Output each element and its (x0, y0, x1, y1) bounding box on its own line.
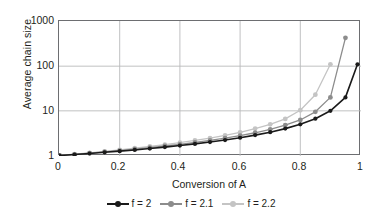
data-point (343, 95, 347, 99)
data-point (253, 126, 258, 131)
data-point (298, 122, 302, 126)
data-point (118, 149, 122, 153)
data-point (283, 116, 288, 121)
data-point (148, 146, 152, 150)
legend-item-f2[interactable]: f = 2 (107, 198, 152, 209)
data-point (313, 117, 317, 121)
y-tick-label-10: 10 (14, 105, 54, 115)
data-point (283, 127, 287, 131)
data-point (328, 62, 333, 67)
data-series-layer (59, 35, 360, 156)
legend-item-f21[interactable]: f = 2.1 (160, 198, 213, 209)
data-point (268, 122, 273, 127)
legend-label-f22: f = 2.2 (247, 198, 275, 209)
data-point (208, 140, 212, 144)
data-point (313, 92, 318, 97)
data-point (253, 133, 257, 137)
data-point (298, 118, 303, 123)
y-tick-label-100: 100 (14, 60, 54, 70)
x-tick-label-0: 0 (38, 161, 78, 171)
chart-legend: f = 2 f = 2.1 f = 2.2 (0, 198, 382, 209)
x-tick-label-0.4: 0.4 (158, 161, 198, 171)
data-point (59, 153, 62, 156)
legend-marker-f22 (230, 201, 236, 207)
legend-label-f21: f = 2.1 (185, 198, 213, 209)
gridlines (59, 21, 361, 156)
legend-marker-f2 (115, 201, 121, 207)
x-axis-title: Conversion of A (58, 178, 360, 190)
plot-svg (59, 21, 361, 156)
legend-marker-f21 (168, 201, 174, 207)
x-tick-label-0.6: 0.6 (219, 161, 259, 171)
data-point (328, 109, 332, 113)
legend-swatch-icon (222, 199, 244, 208)
plot-area (58, 20, 360, 155)
data-point (223, 138, 227, 142)
data-point (193, 142, 197, 146)
data-point (88, 151, 92, 155)
legend-swatch-icon (107, 199, 129, 208)
data-point (355, 62, 359, 66)
x-tick-label-0.2: 0.2 (98, 161, 138, 171)
data-point (103, 150, 107, 154)
data-point (313, 109, 318, 114)
data-point (343, 35, 348, 40)
legend-swatch-icon (160, 199, 182, 208)
data-point (163, 145, 167, 149)
data-point (178, 143, 182, 147)
y-tick-label-1: 1 (14, 150, 54, 160)
series-f2 (59, 62, 360, 156)
data-point (238, 136, 242, 140)
series-f2.1 (59, 35, 348, 156)
data-point (133, 148, 137, 152)
legend-item-f22[interactable]: f = 2.2 (222, 198, 275, 209)
data-point (328, 95, 333, 100)
chart-figure: Average chain size 1000 100 10 1 0 0.2 0… (0, 0, 382, 221)
data-point (298, 108, 303, 113)
x-tick-label-1: 1 (340, 161, 380, 171)
y-tick-label-1000: 1000 (14, 15, 54, 25)
x-tick-label-0.8: 0.8 (279, 161, 319, 171)
legend-label-f2: f = 2 (132, 198, 152, 209)
data-point (268, 130, 272, 134)
